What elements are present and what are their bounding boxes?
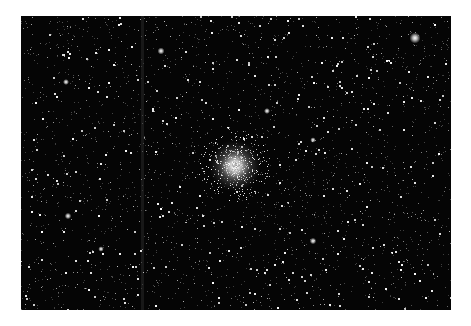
star-field-image: Star field with globular cluster bbox=[21, 16, 451, 310]
sky-canvas bbox=[21, 16, 451, 310]
